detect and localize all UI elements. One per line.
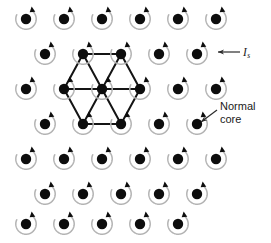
- vortex-supercurrent-icon: [130, 77, 150, 100]
- vortex-supercurrent-icon: [168, 7, 188, 30]
- vortex-supercurrent-icon: [130, 147, 150, 170]
- vortex-supercurrent-icon: [130, 212, 150, 235]
- vortex-supercurrent-icon: [92, 77, 112, 100]
- vortex-grid-overlay: [54, 42, 150, 135]
- normal-core-dot: [78, 119, 88, 129]
- supercurrent-arrowhead: [30, 77, 36, 83]
- vortex-supercurrent-icon: [35, 42, 55, 65]
- vortex-supercurrent-icon: [54, 147, 74, 170]
- vortex-supercurrent-icon: [111, 112, 131, 135]
- supercurrent-arrowhead: [182, 212, 188, 218]
- normal-core-label-line-0: Normal: [220, 100, 255, 112]
- vortex-supercurrent-icon: [73, 112, 93, 135]
- normal-core-dot: [173, 154, 183, 164]
- normal-core-dot: [97, 154, 107, 164]
- normal-core-dot: [40, 189, 50, 199]
- normal-core-dot: [21, 84, 31, 94]
- supercurrent-arrowhead: [220, 147, 226, 153]
- normal-core-dot: [173, 14, 183, 24]
- supercurrent-arrowhead: [125, 42, 131, 48]
- vortex-supercurrent-icon: [187, 112, 207, 135]
- normal-core-dot: [211, 154, 221, 164]
- supercurrent-arrowhead: [163, 42, 169, 48]
- supercurrent-arrowhead: [106, 7, 112, 13]
- supercurrent-arrowhead: [201, 112, 207, 118]
- normal-core-dot: [135, 154, 145, 164]
- vortex-supercurrent-icon: [168, 77, 188, 100]
- vortex-supercurrent-icon: [206, 7, 226, 30]
- vortex-supercurrent-icon: [54, 7, 74, 30]
- normal-core-dot: [135, 14, 145, 24]
- supercurrent-arrowhead: [182, 147, 188, 153]
- supercurrent-arrowhead: [220, 77, 226, 83]
- normal-core-dot: [135, 219, 145, 229]
- vortex-supercurrent-icon: [16, 7, 36, 30]
- vortex-supercurrent-icon: [187, 182, 207, 205]
- vortex-supercurrent-icon: [92, 212, 112, 235]
- supercurrent-arrowhead: [30, 147, 36, 153]
- normal-core-dot: [154, 49, 164, 59]
- normal-core-dot: [97, 84, 107, 94]
- vortex-supercurrent-icon: [73, 182, 93, 205]
- supercurrent-arrowhead: [106, 212, 112, 218]
- vortex-supercurrent-icon: [149, 42, 169, 65]
- normal-core-dot: [78, 189, 88, 199]
- supercurrent-arrowhead: [144, 7, 150, 13]
- vortex-supercurrent-icon: [92, 7, 112, 30]
- vortex-supercurrent-icon: [149, 182, 169, 205]
- normal-core-dot: [116, 49, 126, 59]
- normal-core-label: Normalcore: [201, 100, 255, 125]
- supercurrent-arrowhead: [106, 147, 112, 153]
- normal-core-dot: [211, 14, 221, 24]
- normal-core-dot: [192, 189, 202, 199]
- supercurrent-arrowhead: [87, 42, 93, 48]
- supercurrent-arrowhead: [144, 77, 150, 83]
- supercurrent-arrowhead: [144, 212, 150, 218]
- vortex-supercurrent-icon: [35, 182, 55, 205]
- supercurrent-arrowhead: [30, 7, 36, 13]
- normal-core-dot: [78, 49, 88, 59]
- supercurrent-arrowhead: [163, 112, 169, 118]
- supercurrent-label: Is: [218, 46, 250, 61]
- normal-core-dot: [116, 119, 126, 129]
- normal-core-dot: [59, 154, 69, 164]
- supercurrent-arrowhead: [68, 7, 74, 13]
- normal-core-dot: [154, 189, 164, 199]
- supercurrent-arrowhead: [182, 7, 188, 13]
- supercurrent-arrowhead: [182, 77, 188, 83]
- normal-core-dot: [192, 119, 202, 129]
- normal-core-dot: [154, 119, 164, 129]
- normal-core-dot: [135, 84, 145, 94]
- supercurrent-arrowhead: [49, 112, 55, 118]
- supercurrent-arrowhead: [201, 42, 207, 48]
- normal-core-dot: [192, 49, 202, 59]
- vortex-supercurrent-icon: [16, 147, 36, 170]
- normal-core-dot: [59, 219, 69, 229]
- vortex-supercurrent-icon: [130, 7, 150, 30]
- supercurrent-label-subscript: s: [247, 51, 250, 60]
- vortex-supercurrent-icon: [35, 112, 55, 135]
- supercurrent-label-text: Is: [242, 46, 250, 61]
- vortex-supercurrent-icon: [92, 147, 112, 170]
- vortex-supercurrent-icon: [54, 212, 74, 235]
- normal-core-dot: [59, 14, 69, 24]
- vortex-supercurrent-icon: [187, 42, 207, 65]
- supercurrent-arrowhead: [125, 182, 131, 188]
- normal-core-dot: [173, 219, 183, 229]
- vortex-supercurrent-icon: [111, 42, 131, 65]
- supercurrent-arrowhead: [30, 212, 36, 218]
- supercurrent-arrowhead: [49, 42, 55, 48]
- normal-core-label-line-1: core: [220, 113, 241, 125]
- normal-core-dot: [211, 84, 221, 94]
- normal-core-dot: [40, 119, 50, 129]
- vortex-supercurrent-icon: [16, 77, 36, 100]
- normal-core-dot: [21, 154, 31, 164]
- supercurrent-arrowhead: [49, 182, 55, 188]
- supercurrent-arrowhead: [220, 7, 226, 13]
- supercurrent-arrowhead: [68, 147, 74, 153]
- supercurrent-arrowhead: [201, 182, 207, 188]
- normal-core-dot: [97, 219, 107, 229]
- vortex-lattice-figure: IsNormalcore: [0, 0, 271, 243]
- normal-core-dot: [21, 219, 31, 229]
- normal-core-dot: [21, 14, 31, 24]
